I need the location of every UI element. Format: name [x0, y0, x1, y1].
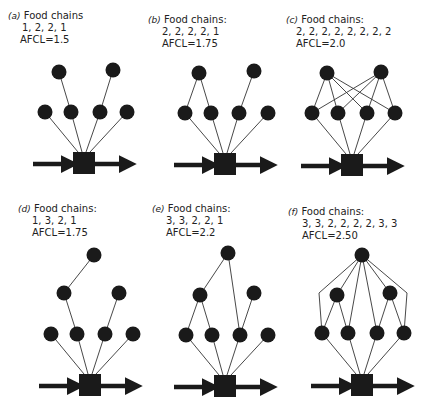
basal-consumer-node [261, 328, 276, 343]
basal-consumer-node [64, 105, 79, 120]
basal-consumer-node [341, 326, 356, 341]
top-predator-node [221, 246, 236, 261]
intermediate-consumer-node [112, 286, 127, 301]
feeding-link [362, 255, 377, 333]
basal-consumer-node [70, 327, 85, 342]
basal-consumer-node [38, 105, 53, 120]
basal-consumer-node [126, 327, 141, 342]
intermediate-consumer-node [247, 286, 262, 301]
basal-consumer-node [120, 105, 135, 120]
resource-box-a [73, 152, 95, 174]
basal-consumer-node [232, 106, 247, 121]
intermediate-consumer-node [193, 288, 208, 303]
basal-consumer-node [93, 105, 108, 120]
basal-consumer-node [360, 106, 375, 121]
basal-consumer-node [205, 328, 220, 343]
basal-consumer-node [204, 106, 219, 121]
basal-consumer-node [305, 106, 320, 121]
intermediate-consumer-node [57, 286, 72, 301]
feeding-link [200, 253, 228, 295]
basal-consumer-node [315, 326, 330, 341]
resource-box-b [214, 153, 236, 175]
resource-box-e [214, 375, 236, 397]
top-predator-node [106, 63, 121, 78]
food-web-diagrams [0, 0, 426, 407]
basal-consumer-node [397, 326, 412, 341]
resource-box-f [351, 374, 373, 396]
intermediate-consumer-node [330, 288, 345, 303]
basal-consumer-node [261, 106, 276, 121]
basal-consumer-node [370, 326, 385, 341]
top-predator-node [355, 248, 370, 263]
resource-box-c [341, 154, 363, 176]
feeding-link [228, 253, 240, 335]
feeding-link [338, 72, 381, 113]
resource-box-d [79, 374, 101, 396]
basal-consumer-node [98, 327, 113, 342]
basal-consumer-node [233, 328, 248, 343]
top-predator-node [87, 248, 102, 263]
top-predator-node [192, 66, 207, 81]
top-predator-node [374, 65, 389, 80]
basal-consumer-node [178, 106, 193, 121]
basal-consumer-node [331, 106, 346, 121]
top-predator-node [52, 65, 67, 80]
basal-consumer-node [179, 328, 194, 343]
top-predator-node [320, 66, 335, 81]
basal-consumer-node [44, 327, 59, 342]
top-predator-node [247, 64, 262, 79]
basal-consumer-node [388, 106, 403, 121]
intermediate-consumer-node [383, 286, 398, 301]
